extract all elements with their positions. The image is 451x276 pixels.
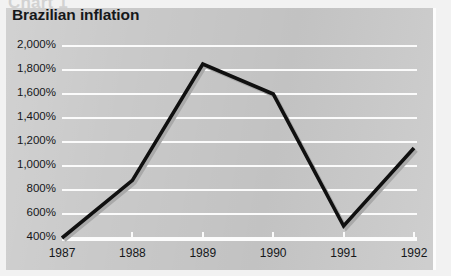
chart-screenshot: Chart 1 Brazilian inflation 2,000%1,800%… bbox=[0, 0, 451, 276]
series-line-shadow bbox=[65, 67, 417, 241]
inflation-line-series bbox=[0, 0, 451, 276]
